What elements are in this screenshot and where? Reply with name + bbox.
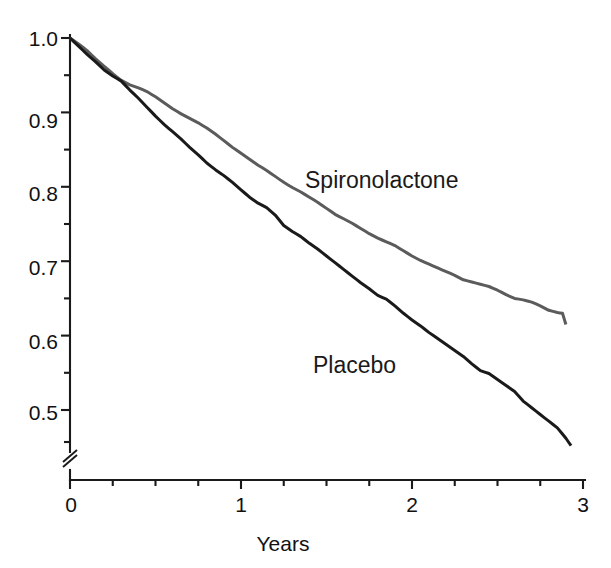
x-tick-label-2: 2 <box>406 493 418 516</box>
y-tick-label-0-5: 0.5 <box>29 401 58 424</box>
x-tick-label-1: 1 <box>235 493 247 516</box>
y-tick-label-0-8: 0.8 <box>29 182 58 205</box>
y-tick-label-0-6: 0.6 <box>29 330 58 353</box>
survival-chart: 1.0 0.9 0.8 0.7 0.6 0.5 0 1 2 3 Years Sp… <box>0 0 611 568</box>
chart-background <box>0 0 611 568</box>
spironolactone-series-label: Spironolactone <box>305 167 458 193</box>
x-axis-title: Years <box>257 532 310 555</box>
x-tick-label-3: 3 <box>577 493 589 516</box>
kaplan-meier-plot: 1.0 0.9 0.8 0.7 0.6 0.5 0 1 2 3 Years Sp… <box>0 0 611 568</box>
placebo-series-label: Placebo <box>313 352 396 378</box>
y-tick-label-0-7: 0.7 <box>29 256 58 279</box>
y-tick-label-1-0: 1.0 <box>29 27 58 50</box>
x-tick-label-0: 0 <box>65 493 77 516</box>
y-tick-label-0-9: 0.9 <box>29 109 58 132</box>
